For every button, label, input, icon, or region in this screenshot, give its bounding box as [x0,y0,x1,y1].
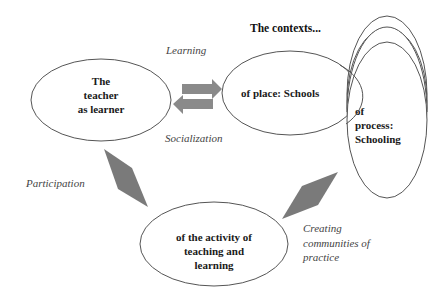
edge-label-learning: Learning [165,44,207,56]
node-teacher-as-learner: The teacher as learner [31,59,171,141]
teacher-label-line-1: The [92,75,110,87]
right-arrow-icon [182,79,222,99]
process-label-line-2: process: [355,119,393,131]
diamond-connector-communities [282,172,338,219]
place-label: of place: Schools [241,87,320,99]
node-activity-teaching-learning: of the activity of teaching and learning [140,202,288,286]
diamond-connector-participation [104,149,148,207]
activity-label-line-2: teaching and [184,245,244,257]
teacher-label-line-2: teacher [84,89,119,101]
diagram-title: The contexts... [250,22,321,34]
activity-ellipse [140,202,288,286]
process-label-line-3: Schooling [355,133,401,145]
teacher-label-line-3: as learner [78,103,125,115]
edge-label-communities-line-2: communities of [303,237,372,249]
diagram-canvas: The contexts... The teacher as learner L… [0,0,448,299]
double-arrow-learning-socialization [173,79,222,114]
left-arrow-icon [173,95,213,114]
node-process-schooling: of process: Schooling [347,16,427,198]
edge-label-communities-line-1: Creating [303,222,342,234]
edge-label-participation: Participation [25,177,85,189]
edge-label-socialization: Socialization [165,132,223,144]
process-label-line-1: of [355,105,365,117]
edge-label-communities-line-3: practice [302,251,339,263]
activity-label-line-3: learning [194,259,234,271]
activity-label-line-1: of the activity of [176,231,252,243]
